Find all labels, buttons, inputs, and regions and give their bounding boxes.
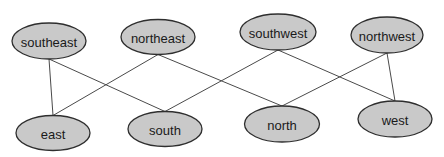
node-label-east: east xyxy=(41,127,66,142)
node-northeast: northeast xyxy=(121,20,195,55)
edge-northeast-east xyxy=(53,55,158,116)
edge-southeast-south xyxy=(49,59,165,112)
direction-graph-diagram: southeastnortheastsouthwestnorthwesteast… xyxy=(0,0,444,157)
edge-northeast-north xyxy=(158,55,282,107)
edge-southwest-south xyxy=(165,50,278,112)
edge-southeast-east xyxy=(49,59,53,116)
node-east: east xyxy=(16,116,90,151)
edge-northwest-west xyxy=(387,53,395,101)
node-west: west xyxy=(358,101,432,137)
node-label-north: north xyxy=(267,118,297,133)
node-label-southeast: southeast xyxy=(21,35,78,50)
edges-layer xyxy=(49,50,395,116)
edge-northwest-north xyxy=(282,53,387,106)
node-label-northeast: northeast xyxy=(131,31,186,46)
node-northwest: northwest xyxy=(351,17,423,53)
node-label-west: west xyxy=(381,113,409,128)
node-label-southwest: southwest xyxy=(249,26,308,41)
nodes-layer: southeastnortheastsouthwestnorthwesteast… xyxy=(12,14,432,151)
node-label-northwest: northwest xyxy=(359,29,416,44)
node-north: north xyxy=(245,106,320,142)
node-label-south: south xyxy=(149,123,181,138)
node-south: south xyxy=(128,112,202,147)
node-southeast: southeast xyxy=(12,23,86,59)
node-southwest: southwest xyxy=(240,14,316,50)
